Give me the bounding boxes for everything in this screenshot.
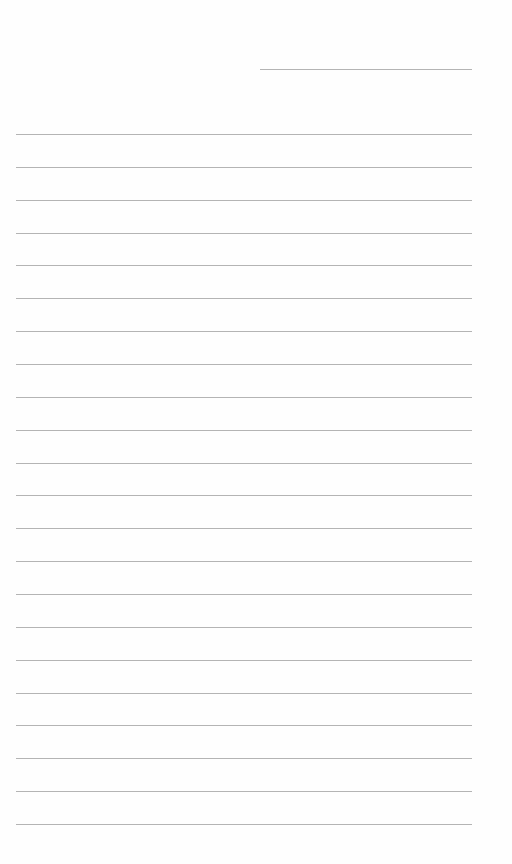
ruled-line bbox=[16, 627, 472, 628]
ruled-line bbox=[16, 758, 472, 759]
header-line bbox=[260, 69, 472, 70]
ruled-line bbox=[16, 495, 472, 496]
ruled-line bbox=[16, 397, 472, 398]
ruled-line bbox=[16, 233, 472, 234]
ruled-line bbox=[16, 594, 472, 595]
ruled-line bbox=[16, 693, 472, 694]
ruled-line bbox=[16, 824, 472, 825]
ruled-line bbox=[16, 200, 472, 201]
ruled-line bbox=[16, 561, 472, 562]
ruled-line bbox=[16, 134, 472, 135]
lined-paper-page bbox=[0, 0, 512, 864]
ruled-line bbox=[16, 298, 472, 299]
ruled-line bbox=[16, 167, 472, 168]
ruled-line bbox=[16, 528, 472, 529]
ruled-line bbox=[16, 725, 472, 726]
ruled-line bbox=[16, 463, 472, 464]
ruled-line bbox=[16, 265, 472, 266]
ruled-line bbox=[16, 791, 472, 792]
ruled-line bbox=[16, 430, 472, 431]
ruled-line bbox=[16, 364, 472, 365]
ruled-line bbox=[16, 660, 472, 661]
ruled-line bbox=[16, 331, 472, 332]
